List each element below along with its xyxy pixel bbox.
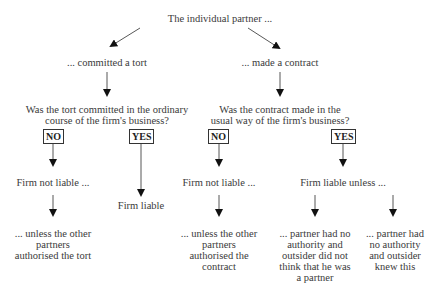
tort-no-result: Firm not liable ... [3,177,103,188]
line: authorised the tort [3,250,103,261]
line: knew this [355,261,435,272]
line: no authority [355,239,435,250]
contract-question-line-1: Was the contract made in the [190,104,370,115]
contract-yes-box: YES [331,129,356,144]
line: a partner [270,272,360,283]
contract-no-box: NO [208,129,229,144]
contract-question: Was the contract made in the usual way o… [190,104,370,126]
line: and outsider [355,250,435,261]
line: authorised the [169,250,269,261]
line: outsider did not [270,250,360,261]
contract-yes-exception-1: ... partner had no authority and outside… [270,228,360,283]
line: think that he was [270,261,360,272]
contract-yes-exception-2: ... partner had no authority and outside… [355,228,435,272]
tort-branch-node: ... committed a tort [57,57,157,68]
tort-no-box: NO [43,129,64,144]
contract-question-line-2: usual way of the firm's business? [190,115,370,126]
contract-branch-node: ... made a contract [230,57,330,68]
contract-no-result: Firm not liable ... [169,177,269,188]
line: ... unless the other [169,228,269,239]
tort-yes-result: Firm liable [101,200,181,211]
line: contract [169,261,269,272]
line: ... partner had [355,228,435,239]
line: partners [169,239,269,250]
tort-yes-box: YES [129,129,154,144]
line: ... unless the other [3,228,103,239]
tort-no-exception: ... unless the other partners authorised… [3,228,103,261]
line: ... partner had no [270,228,360,239]
line: authority and [270,239,360,250]
tort-question: Was the tort committed in the ordinary c… [12,104,202,126]
tort-question-line-2: course of the firm's business? [12,115,202,126]
contract-no-exception: ... unless the other partners authorised… [169,228,269,272]
tort-question-line-1: Was the tort committed in the ordinary [12,104,202,115]
contract-yes-result: Firm liable unless ... [293,177,393,188]
line: partners [3,239,103,250]
root-node: The individual partner ... [150,13,290,24]
